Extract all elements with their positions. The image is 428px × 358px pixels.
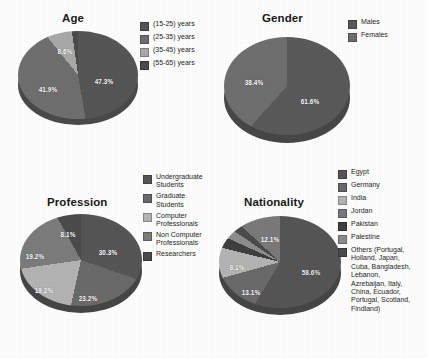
- legend-label: (35-45) years: [153, 46, 195, 54]
- legend-item[interactable]: Researchers: [143, 250, 215, 261]
- slice-label-nationality-1: 12.1%: [261, 236, 280, 243]
- chart-title-gender: Gender: [262, 12, 303, 24]
- legend-label: Palestine: [351, 233, 380, 241]
- legend-swatch-icon: [140, 48, 149, 57]
- legend-swatch-icon: [338, 196, 347, 205]
- legend-item[interactable]: (35-45) years: [140, 46, 214, 57]
- slice-label-profession-3: 19.2%: [26, 253, 45, 260]
- figure-canvas: Age 47.3% 41.9% 8.6% (15-25) years (25-3…: [0, 0, 428, 358]
- pie-top-age: [18, 31, 138, 119]
- legend-label: India: [351, 194, 366, 202]
- legend-label: Undergraduate Students: [156, 173, 203, 190]
- pie-body-gender: [224, 37, 350, 147]
- legend-label: Researchers: [156, 250, 196, 258]
- legend-swatch-icon: [338, 170, 347, 179]
- slice-label-profession-4: 8.1%: [61, 231, 76, 238]
- slice-label-nationality-2: 8.1%: [230, 264, 245, 271]
- legend-label: (25-35) years: [153, 33, 195, 41]
- slice-label-age-2: 8.6%: [58, 48, 73, 55]
- pie-chart-nationality: 58.6% 12.1% 8.1% 13.1%: [219, 216, 341, 320]
- legend-label: Computer Professionals: [156, 212, 198, 229]
- legend-swatch-icon: [140, 61, 149, 70]
- legend-swatch-icon: [143, 213, 152, 222]
- legend-swatch-icon: [143, 175, 152, 184]
- legend-label: (55-65) years: [153, 59, 195, 67]
- pie-chart-gender: 61.6% 38.4%: [224, 37, 350, 147]
- legend-swatch-icon: [143, 232, 152, 241]
- legend-item[interactable]: Undergraduate Students: [143, 173, 215, 190]
- pie-top-nationality: [219, 216, 341, 308]
- legend-item[interactable]: Males: [348, 18, 426, 29]
- slice-label-profession-1: 23.2%: [79, 295, 98, 302]
- slice-label-nationality-3: 13.1%: [242, 289, 261, 296]
- legend-profession: Undergraduate Students Graduate Students…: [143, 173, 215, 263]
- legend-label: (15-25) years: [153, 20, 195, 28]
- legend-label: Females: [361, 31, 388, 39]
- legend-label: Others (Portugal, Holland, Japan, Cuba, …: [351, 246, 411, 313]
- pie-chart-age: 47.3% 41.9% 8.6%: [18, 31, 138, 131]
- legend-item[interactable]: Germany: [338, 181, 428, 192]
- legend-item[interactable]: Others (Portugal, Holland, Japan, Cuba, …: [338, 246, 428, 313]
- chart-panel-profession: Profession 30.3% 23.2% 19.2% 19.2% 8.1% …: [0, 179, 214, 358]
- legend-swatch-icon: [348, 33, 357, 42]
- legend-item[interactable]: Computer Professionals: [143, 212, 215, 229]
- legend-label: Non Computer Professionals: [156, 231, 202, 248]
- legend-label: Egypt: [351, 168, 369, 176]
- slice-label-profession-2: 19.2%: [35, 287, 54, 294]
- pie-top-gender: [224, 37, 350, 135]
- legend-label: Germany: [351, 181, 380, 189]
- legend-item[interactable]: Egypt: [338, 168, 428, 179]
- legend-swatch-icon: [338, 248, 347, 257]
- chart-title-nationality: Nationality: [244, 196, 304, 208]
- legend-swatch-icon: [338, 235, 347, 244]
- legend-item[interactable]: Non Computer Professionals: [143, 231, 215, 248]
- chart-panel-gender: Gender 61.6% 38.4% Males Females: [214, 0, 428, 179]
- legend-swatch-icon: [338, 222, 347, 231]
- slice-label-age-0: 47.3%: [95, 78, 114, 85]
- slice-label-nationality-0: 58.6%: [302, 269, 321, 276]
- legend-swatch-icon: [338, 183, 347, 192]
- legend-swatch-icon: [140, 22, 149, 31]
- legend-gender: Males Females: [348, 18, 426, 44]
- legend-swatch-icon: [140, 35, 149, 44]
- legend-label: Males: [361, 18, 380, 26]
- legend-age: (15-25) years (25-35) years (35-45) year…: [140, 20, 214, 72]
- chart-panel-nationality: Nationality 58.6% 12.1% 8.1% 13.1% Egypt…: [214, 179, 428, 358]
- legend-swatch-icon: [143, 194, 152, 203]
- slice-label-profession-0: 30.3%: [99, 249, 118, 256]
- slice-label-gender-1: 38.4%: [245, 79, 264, 86]
- chart-title-profession: Profession: [47, 196, 107, 208]
- legend-item[interactable]: Jordan: [338, 207, 428, 218]
- legend-item[interactable]: Females: [348, 31, 426, 42]
- chart-panel-age: Age 47.3% 41.9% 8.6% (15-25) years (25-3…: [0, 0, 214, 179]
- legend-nationality: Egypt Germany India Jordan Pakistan Pale…: [338, 168, 428, 316]
- legend-item[interactable]: (55-65) years: [140, 59, 214, 70]
- legend-item[interactable]: Palestine: [338, 233, 428, 244]
- slice-label-gender-0: 61.6%: [301, 98, 320, 105]
- legend-swatch-icon: [143, 252, 152, 261]
- chart-title-age: Age: [62, 12, 84, 24]
- pie-chart-profession: 30.3% 23.2% 19.2% 19.2% 8.1%: [20, 214, 142, 318]
- slice-label-age-1: 41.9%: [39, 86, 58, 93]
- legend-item[interactable]: Graduate Students: [143, 192, 215, 209]
- pie-body-age: [18, 31, 138, 131]
- legend-label: Jordan: [351, 207, 372, 215]
- legend-item[interactable]: Pakistan: [338, 220, 428, 231]
- legend-swatch-icon: [338, 209, 347, 218]
- legend-label: Graduate Students: [156, 192, 185, 209]
- legend-swatch-icon: [348, 20, 357, 29]
- legend-item[interactable]: India: [338, 194, 428, 205]
- legend-item[interactable]: (25-35) years: [140, 33, 214, 44]
- legend-label: Pakistan: [351, 220, 378, 228]
- pie-body-profession: [20, 214, 142, 318]
- legend-item[interactable]: (15-25) years: [140, 20, 214, 31]
